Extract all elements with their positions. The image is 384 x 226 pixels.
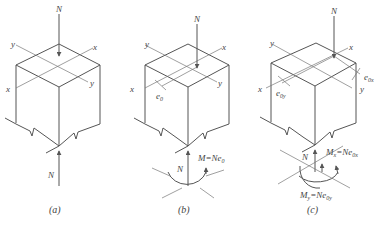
- panel-b-uniaxial-eccentric: y y x x e0 N N M=Ne0 (b): [129, 14, 229, 216]
- moment-arc-x: [299, 172, 338, 182]
- moment-axis: [152, 168, 170, 176]
- load-label-bottom: N: [176, 164, 184, 174]
- column-box: [260, 43, 356, 152]
- x-axis-label: x: [257, 84, 262, 94]
- column-loading-diagram: y y x x N N (a) y y x x e0 N N: [0, 0, 384, 226]
- eccentric-load-line: [282, 56, 334, 83]
- moment-axis: [162, 188, 182, 198]
- x-axis-label: x: [348, 42, 353, 52]
- moment-axis: [206, 170, 224, 176]
- y-axis-label: y: [359, 84, 364, 94]
- moment-arc: [168, 172, 206, 184]
- panel-caption: (a): [49, 204, 61, 216]
- x-axis-label: x: [221, 42, 226, 52]
- x-axis-label: x: [5, 84, 10, 94]
- eccentricity-y-label: e0y: [276, 88, 286, 99]
- moment-arrow-x: [336, 166, 338, 174]
- load-label-bottom: N: [301, 152, 309, 162]
- panel-a-axial-load: y y x x N N (a): [5, 4, 100, 216]
- x-axis-label: x: [129, 84, 134, 94]
- load-label-top: N: [330, 6, 338, 16]
- y-axis: [16, 45, 88, 82]
- load-label-bottom: N: [47, 170, 55, 180]
- y-axis-label: y: [269, 38, 274, 48]
- y-axis-label: y: [89, 78, 94, 88]
- y-axis-label: y: [144, 39, 149, 49]
- x-axis: [145, 48, 222, 88]
- y-axis: [145, 45, 217, 82]
- column-box: [134, 44, 229, 153]
- load-label-top: N: [55, 4, 63, 14]
- column-box: [5, 44, 100, 153]
- x-axis: [16, 48, 93, 88]
- y-axis-label: y: [217, 78, 222, 88]
- panel-c-biaxial-eccentric: y y x x e0y e0x N N Mx=Ne0x My=Ne0y (c): [257, 6, 374, 216]
- moment-axis: [200, 188, 214, 198]
- moment-label: M=Ne0: [197, 153, 225, 164]
- panel-caption: (c): [307, 204, 319, 216]
- load-label-top: N: [193, 14, 201, 24]
- panel-caption: (b): [178, 204, 190, 216]
- eccentricity-x-label: e0x: [364, 72, 374, 83]
- moment-x-label: Mx=Ne0x: [325, 147, 358, 158]
- moment-y-label: My=Ne0y: [299, 190, 332, 201]
- x-axis-label: x: [92, 42, 97, 52]
- eccentricity-label: e0: [156, 91, 163, 102]
- y-axis-label: y: [10, 39, 15, 49]
